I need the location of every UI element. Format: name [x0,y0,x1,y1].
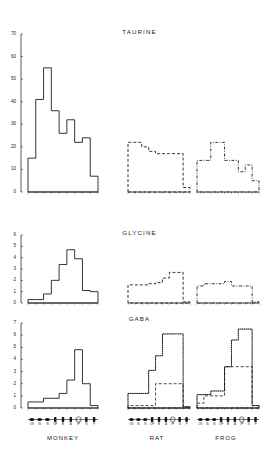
species-label-rat: RAT [150,435,165,441]
row-gaba: GABA 01234567 OSISNOPBAIPGF OSISNOPBAIPG… [0,313,279,462]
y-axis-scale-gaba: 01234567 [0,323,28,408]
y-axis-gaba: 01234567 [0,323,28,408]
retina-cell-glyph [212,418,216,421]
y-tick-label: 70 [4,31,16,36]
x-tick-label: A [70,422,72,426]
x-tick-label: B [158,422,160,426]
series-main [197,281,259,303]
series-main [28,68,98,192]
x-tick-label: OP [150,422,154,426]
row-title-gaba: GABA [0,315,279,322]
y-tick-label: 60 [4,54,16,59]
y-tick-label: 6 [4,333,16,338]
retina-cell-glyph [143,418,147,421]
x-tick-label: N [46,422,48,426]
y-tick-label: 10 [4,167,16,172]
histogram-taurine-frog [197,34,261,194]
panel-glycine-monkey [28,235,100,305]
x-tick-label: B [62,422,64,426]
x-tick-label: IP [240,422,243,426]
panel-gaba-frog [197,323,261,410]
x-tick-label: G [179,422,181,426]
retina-cell-glyph [136,418,140,421]
histogram-gaba-frog [197,323,261,410]
series-main [28,350,98,408]
panel-gaba-monkey [28,323,100,410]
panel-taurine-monkey [28,34,100,194]
y-tick-label: 6 [4,232,16,237]
species-label-frog: FROG [215,435,236,441]
x-tick-label: N [144,422,146,426]
histogram-gaba-monkey [28,323,100,410]
panel-taurine-rat [128,34,192,194]
y-tick-label: 7 [4,320,16,325]
y-tick-label: 4 [4,255,16,260]
y-tick-label: 4 [4,357,16,362]
x-tick-label: OP [53,422,57,426]
histogram-taurine-rat [128,34,192,194]
x-tick-label: OP [219,422,223,426]
x-tick-label: F [186,422,188,426]
histogram-gaba-rat [128,323,192,410]
y-tick-label: 0 [4,300,16,305]
retina-cell-glyph [198,418,202,421]
row-taurine: TAURINE 010203040506070 [0,0,279,215]
x-tick-label: B [227,422,229,426]
series-main [197,142,259,192]
retina-cell-glyph [37,418,42,421]
y-axis-glycine: 0123456 [0,235,28,303]
histogram-glycine-rat [128,235,192,305]
histogram-glycine-monkey [28,235,100,305]
y-tick-label: 1 [4,393,16,398]
retina-cell-glyph [29,418,34,421]
y-tick-label: 1 [4,289,16,294]
x-tick-label: F [93,422,95,426]
x-tick-label: A [165,422,167,426]
x-tick-label: IS [206,422,209,426]
row-glycine: GLYCINE 0123456 [0,215,279,320]
histogram-glycine-frog [197,235,261,305]
x-tick-label: A [234,422,236,426]
x-tick-label: IP [171,422,174,426]
x-tick-label: OS [129,422,133,426]
x-tick-label: N [213,422,215,426]
y-tick-label: 3 [4,369,16,374]
y-axis-scale-taurine: 010203040506070 [0,34,28,192]
series-main [128,334,190,408]
retina-cell-glyph [129,418,133,421]
y-tick-label: 0 [4,189,16,194]
species-label-monkey: MONKEY [47,435,79,441]
x-tick-label: IS [137,422,140,426]
series-overlay [197,367,259,408]
x-tick-label: IP [77,422,80,426]
y-tick-label: 40 [4,99,16,104]
y-axis-scale-glycine: 0123456 [0,235,28,303]
x-tick-label: G [85,422,87,426]
y-tick-label: 30 [4,122,16,127]
y-tick-label: 2 [4,278,16,283]
series-main [28,250,98,303]
series-main [128,272,190,303]
y-tick-label: 0 [4,405,16,410]
panel-glycine-frog [197,235,261,305]
x-tick-label: IS [38,422,41,426]
series-main [128,142,190,192]
y-tick-label: 50 [4,77,16,82]
histogram-taurine-monkey [28,34,100,194]
y-tick-label: 5 [4,345,16,350]
y-tick-label: 20 [4,144,16,149]
retina-cell-glyph [205,418,209,421]
x-tick-label: OS [198,422,202,426]
panel-glycine-rat [128,235,192,305]
y-axis-taurine: 010203040506070 [0,34,28,192]
figure-root: TAURINE 010203040506070 GLYCINE 0123456 … [0,0,279,462]
x-tick-label: OS [30,422,34,426]
y-tick-label: 3 [4,266,16,271]
series-overlay [128,384,190,408]
y-tick-label: 2 [4,381,16,386]
y-tick-label: 5 [4,244,16,249]
x-tick-label: G [248,422,250,426]
retina-cell-glyph [45,418,50,421]
x-tick-label: F [255,422,257,426]
panel-gaba-rat [128,323,192,410]
